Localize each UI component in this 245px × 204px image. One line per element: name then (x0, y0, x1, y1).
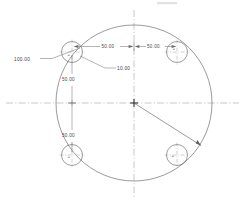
hole-bottom-right-symbol: ⌀ (172, 154, 174, 158)
hole-top-left-symbol: ⌀ (68, 53, 70, 57)
leader-diameter-label: 100.00 (14, 57, 30, 62)
dimension-horizontal-top-left: 50.00 (74, 42, 134, 51)
diagonal-radius-line (134, 103, 201, 146)
dimension-vertical-lower-label: 50.00 (62, 133, 75, 138)
hole-bottom-left-symbol: ⌀ (68, 155, 70, 159)
cad-drawing-canvas: ⌀ ⌀ ⌀ ⌀ 50.00 (0, 0, 245, 204)
drawing-viewport: ⌀ ⌀ ⌀ ⌀ 50.00 (0, 0, 245, 204)
hole-bottom-right: ⌀ (165, 143, 190, 168)
dimension-horizontal-top-left-label: 50.00 (102, 44, 115, 49)
leader-hole-diameter-label: 10.00 (117, 66, 130, 71)
dimension-vertical-upper-label: 50.00 (62, 77, 75, 82)
dimension-horizontal-top-right-label: 50.00 (147, 44, 160, 49)
hole-top-right: ⌀ (165, 40, 190, 65)
dimension-horizontal-top-right: 50.00 (135, 44, 177, 49)
top-edge-artifact (157, 2, 177, 4)
leader-hole-diameter: 10.00 (80, 56, 130, 71)
dimension-vertical-chain: 50.00 50.00 (62, 55, 76, 152)
leader-diameter: 100.00 (14, 48, 80, 62)
hole-top-right-symbol: ⌀ (173, 47, 175, 51)
centerline-group (6, 10, 239, 197)
